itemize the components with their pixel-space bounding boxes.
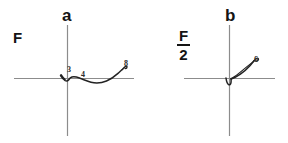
point-label-6: 6 — [254, 56, 258, 64]
point-label-4: 4 — [81, 71, 85, 79]
panel-a: a F 3 4 8 — [0, 0, 144, 143]
panel-a-graphic — [0, 0, 144, 143]
panel-letter-b: b — [225, 7, 235, 24]
trajectory-loop-return — [231, 61, 254, 79]
point-label-8: 8 — [124, 60, 128, 68]
figure-root: a F 3 4 8 b F 2 6 — [0, 0, 288, 143]
force-label-a: F — [13, 30, 22, 45]
fraction-numerator: F — [178, 28, 189, 44]
point-label-3: 3 — [67, 66, 71, 74]
panel-letter-a: a — [62, 7, 71, 24]
force-label-b: F 2 — [177, 28, 190, 62]
panel-b: b F 2 6 — [144, 0, 288, 143]
panel-b-graphic — [144, 0, 288, 143]
fraction-denominator: 2 — [178, 47, 188, 62]
